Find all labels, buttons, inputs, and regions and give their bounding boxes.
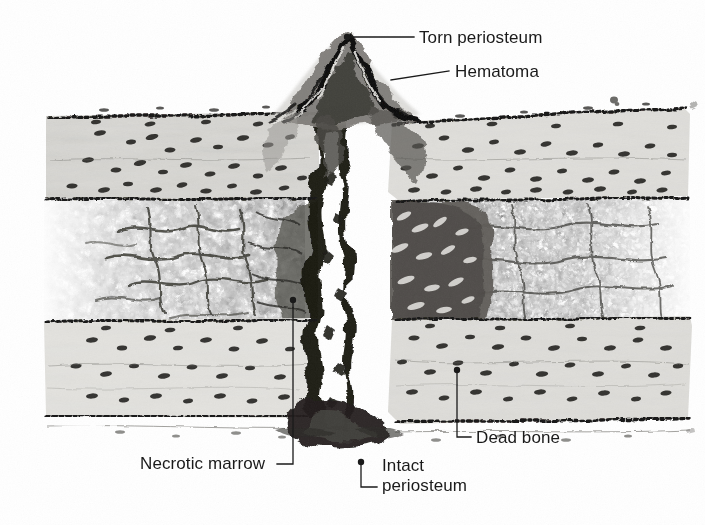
label-intact-periosteum: Intact periosteum <box>382 456 467 496</box>
label-torn-periosteum: Torn periosteum <box>419 28 542 48</box>
figure-container: Torn periosteum Hematoma Dead bone Necro… <box>0 0 705 525</box>
label-hematoma: Hematoma <box>455 62 539 82</box>
label-dead-bone: Dead bone <box>476 428 560 448</box>
bone-fracture-illustration <box>0 0 705 525</box>
lower-left-cortex <box>40 312 330 422</box>
label-necrotic-marrow: Necrotic marrow <box>140 454 265 474</box>
